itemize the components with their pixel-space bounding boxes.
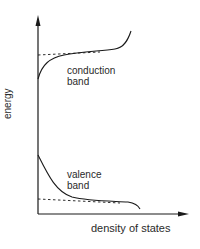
x-axis-arrow-icon: [178, 212, 189, 217]
density-of-states-diagram: [0, 0, 200, 249]
x-axis-label: density of states: [91, 223, 171, 234]
conduction-band-label: conduction band: [67, 65, 115, 87]
conduction-label-line2: band: [67, 76, 115, 87]
y-axis-arrow-icon: [36, 15, 41, 26]
conduction-label-line1: conduction: [67, 65, 115, 76]
valence-label-line2: band: [67, 180, 101, 191]
valence-band-label: valence band: [67, 169, 101, 191]
y-axis-label: energy: [2, 88, 13, 119]
valence-label-line1: valence: [67, 169, 101, 180]
